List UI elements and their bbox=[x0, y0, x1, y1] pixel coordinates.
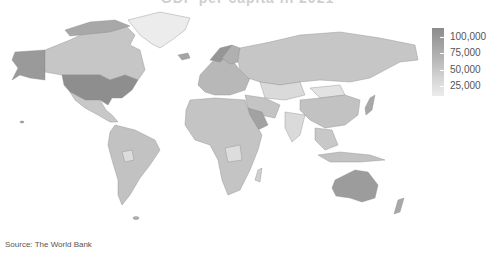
region-hawaii[interactable] bbox=[20, 121, 24, 123]
region-south-america[interactable] bbox=[108, 125, 160, 205]
legend-tick bbox=[440, 53, 444, 54]
color-legend: 100,000 75,000 50,000 25,000 bbox=[430, 28, 495, 98]
legend-label-75000: 75,000 bbox=[450, 47, 481, 58]
region-drc[interactable] bbox=[225, 145, 242, 162]
region-indonesia[interactable] bbox=[318, 152, 385, 162]
legend-tick bbox=[440, 86, 444, 87]
region-japan[interactable] bbox=[365, 95, 375, 115]
world-map[interactable] bbox=[0, 0, 495, 235]
region-southeast-asia[interactable] bbox=[315, 128, 338, 150]
region-new-zealand[interactable] bbox=[394, 198, 404, 214]
source-note: Source: The World Bank bbox=[5, 240, 92, 249]
region-china[interactable] bbox=[300, 95, 360, 128]
region-australia[interactable] bbox=[332, 170, 378, 202]
region-india[interactable] bbox=[285, 112, 305, 142]
legend-tick bbox=[440, 37, 444, 38]
legend-tick bbox=[440, 70, 444, 71]
region-alaska[interactable] bbox=[12, 50, 45, 80]
legend-label-100000: 100,000 bbox=[450, 31, 486, 42]
region-madagascar[interactable] bbox=[255, 168, 262, 182]
legend-label-50000: 50,000 bbox=[450, 64, 481, 75]
region-greenland[interactable] bbox=[128, 12, 190, 48]
legend-label-25000: 25,000 bbox=[450, 80, 481, 91]
region-iceland[interactable] bbox=[178, 53, 190, 60]
region-falklands[interactable] bbox=[133, 217, 139, 220]
region-russia[interactable] bbox=[238, 32, 418, 85]
region-kazakhstan[interactable] bbox=[260, 82, 305, 100]
